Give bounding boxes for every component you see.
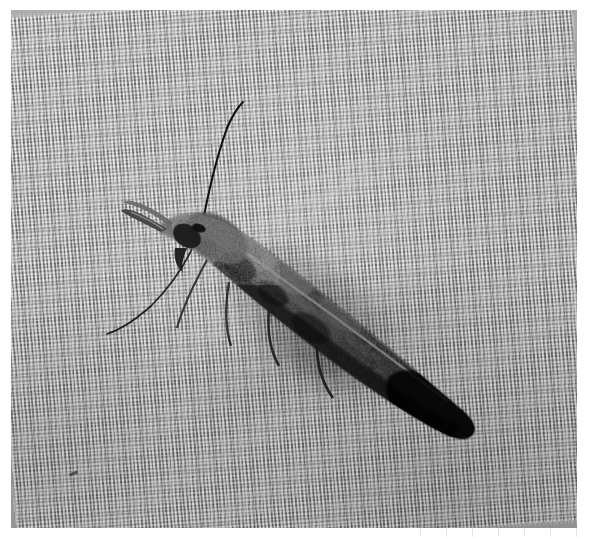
- head-spur: [174, 248, 187, 272]
- photo-frame: Moth resting on woven cloth: [0, 0, 589, 539]
- legs: [259, 162, 429, 254]
- photograph: [11, 10, 577, 528]
- head: [121, 201, 207, 254]
- scan-margin-marks: [420, 528, 585, 537]
- moth: [11, 10, 577, 528]
- image-caption: Moth resting on woven cloth: [0, 0, 1, 1]
